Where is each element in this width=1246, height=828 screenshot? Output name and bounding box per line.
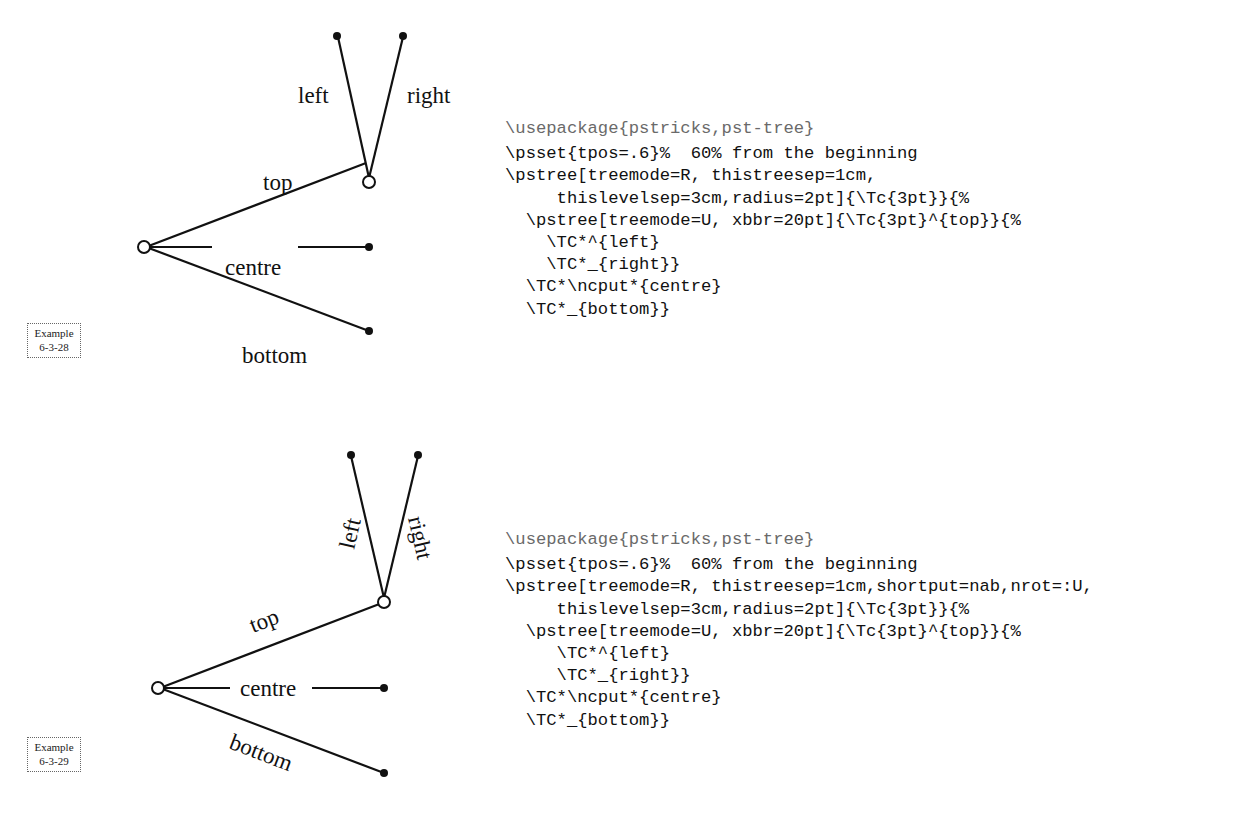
top-node-icon bbox=[363, 176, 375, 188]
label-left: left bbox=[335, 515, 366, 551]
root-node-icon bbox=[152, 682, 164, 694]
example-badge-label: Example bbox=[28, 740, 80, 754]
code-listing: \usepackage{pstricks,pst-tree}\psset{tpo… bbox=[505, 529, 1093, 732]
code-line: \psset{tpos=.6}% 60% from the beginning bbox=[505, 554, 1093, 576]
code-line-usepackage: \usepackage{pstricks,pst-tree} bbox=[505, 529, 1093, 551]
code-line: \TC*\ncput*{centre} bbox=[505, 687, 1093, 709]
right-leaf-icon bbox=[399, 32, 407, 40]
centre-leaf-icon bbox=[365, 243, 373, 251]
right-leaf-icon bbox=[414, 451, 422, 459]
bottom-leaf-icon bbox=[365, 327, 373, 335]
label-bottom: bottom bbox=[242, 343, 307, 368]
label-top: top bbox=[263, 170, 292, 195]
tree-diagram-svg: left right top centre bottom bbox=[120, 20, 480, 400]
centre-leaf-icon bbox=[380, 684, 388, 692]
code-line: \TC*_{bottom}} bbox=[505, 710, 1093, 732]
code-line: \TC*_{right}} bbox=[505, 665, 1093, 687]
tree-diagram-svg: left right top centre bottom bbox=[120, 430, 480, 810]
root-node-icon bbox=[138, 241, 150, 253]
edge-left bbox=[338, 37, 369, 178]
top-node-icon bbox=[378, 596, 390, 608]
label-centre: centre bbox=[240, 676, 296, 701]
code-listing: \usepackage{pstricks,pst-tree}\psset{tpo… bbox=[505, 118, 1021, 321]
code-line: \pstree[treemode=U, xbbr=20pt]{\Tc{3pt}^… bbox=[505, 210, 1021, 232]
tree-diagram: left right top centre bottom bbox=[120, 20, 480, 400]
bottom-leaf-icon bbox=[380, 769, 388, 777]
label-right: right bbox=[407, 83, 451, 108]
code-line: \TC*^{left} bbox=[505, 643, 1093, 665]
code-line: \pstree[treemode=R, thistreesep=1cm,shor… bbox=[505, 576, 1093, 598]
code-line: \psset{tpos=.6}% 60% from the beginning bbox=[505, 143, 1021, 165]
code-line: thislevelsep=3cm,radius=2pt]{\Tc{3pt}}{% bbox=[505, 188, 1021, 210]
edge-top bbox=[146, 163, 366, 247]
label-right: right bbox=[403, 514, 437, 563]
label-top: top bbox=[246, 604, 282, 638]
code-line: \TC*\ncput*{centre} bbox=[505, 276, 1021, 298]
code-line-usepackage: \usepackage{pstricks,pst-tree} bbox=[505, 118, 1021, 140]
tree-edges bbox=[160, 456, 418, 773]
code-line: thislevelsep=3cm,radius=2pt]{\Tc{3pt}}{% bbox=[505, 599, 1093, 621]
example-badge-number: 6-3-28 bbox=[28, 340, 80, 354]
example-badge-number: 6-3-29 bbox=[28, 754, 80, 768]
code-line: \pstree[treemode=U, xbbr=20pt]{\Tc{3pt}^… bbox=[505, 621, 1093, 643]
code-line: \TC*^{left} bbox=[505, 232, 1021, 254]
code-line: \pstree[treemode=R, thistreesep=1cm, bbox=[505, 165, 1021, 187]
code-line: \TC*_{right}} bbox=[505, 254, 1021, 276]
label-left: left bbox=[298, 83, 329, 108]
example-badge: Example 6-3-28 bbox=[27, 323, 81, 358]
left-leaf-icon bbox=[347, 451, 355, 459]
label-centre: centre bbox=[225, 255, 281, 280]
edge-right bbox=[369, 37, 403, 178]
code-line: \TC*_{bottom}} bbox=[505, 299, 1021, 321]
tree-diagram: left right top centre bottom bbox=[120, 430, 480, 810]
left-leaf-icon bbox=[333, 32, 341, 40]
example-badge-label: Example bbox=[28, 326, 80, 340]
example-badge: Example 6-3-29 bbox=[27, 737, 81, 772]
